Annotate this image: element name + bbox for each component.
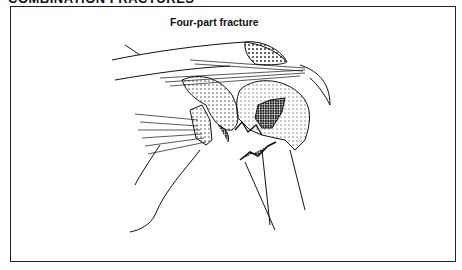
fracture-illustration [0,0,462,270]
